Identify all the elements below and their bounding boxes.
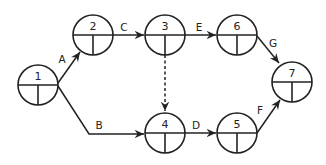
edge-F: F <box>257 100 280 133</box>
edge-label-B: B <box>95 119 102 131</box>
network-diagram: A B C D E F G 1 2 3 <box>0 0 326 165</box>
edge-label-G: G <box>269 37 277 49</box>
node-label-6: 6 <box>234 20 241 33</box>
node-label-3: 3 <box>162 20 169 33</box>
node-5: 5 <box>217 113 257 153</box>
edge-D: D <box>185 119 216 133</box>
node-7: 7 <box>272 62 312 102</box>
node-label-4: 4 <box>162 118 169 131</box>
node-4: 4 <box>145 113 185 153</box>
node-1: 1 <box>18 65 58 105</box>
node-label-2: 2 <box>90 20 97 33</box>
node-3: 3 <box>145 15 185 55</box>
edge-E: E <box>185 21 216 35</box>
node-label-7: 7 <box>289 67 296 80</box>
node-label-1: 1 <box>35 70 42 83</box>
edge-A: A <box>58 52 80 83</box>
edge-label-A: A <box>58 53 66 65</box>
edge-G: G <box>257 36 279 63</box>
node-6: 6 <box>217 15 257 55</box>
edge-B: B <box>58 86 144 134</box>
edge-label-F: F <box>257 104 263 116</box>
node-label-5: 5 <box>234 118 241 131</box>
edge-label-C: C <box>120 21 127 33</box>
edge-C: C <box>113 21 144 35</box>
edge-label-D: D <box>192 119 200 131</box>
edge-label-E: E <box>196 21 203 33</box>
node-2: 2 <box>73 15 113 55</box>
